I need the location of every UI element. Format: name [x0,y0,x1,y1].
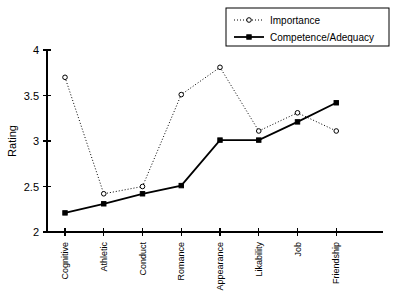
legend-marker [247,18,252,23]
data-point-marker [140,192,144,196]
data-point-marker [295,110,300,115]
data-point-marker [218,65,223,70]
series-1 [63,65,339,196]
legend-entry-label: Competence/Adequacy [270,32,374,43]
data-point-marker [102,202,106,206]
y-axis-tick-label: 3.5 [24,90,39,102]
y-axis-tick-label: 4 [33,44,39,56]
data-point-marker [295,120,299,124]
data-point-marker [140,184,145,189]
data-point-marker [101,191,106,196]
legend: ImportanceCompetence/Adequacy [226,8,389,46]
data-point-marker [63,211,67,215]
data-point-marker [334,129,339,134]
y-axis-tick-label: 2.5 [24,181,39,193]
x-axis-category-label: Likability [254,242,264,277]
x-axis-category-label: Friendship [331,242,341,284]
x-axis-category-label: Athletic [99,242,109,272]
data-point-marker [257,138,261,142]
data-point-marker [179,92,184,97]
series-2 [63,101,339,216]
chart-container: 22.533.54RatingCognitiveAthleticConductR… [0,0,395,297]
legend-entry-label: Importance [270,15,320,26]
x-axis-category-label: Appearance [215,242,225,291]
legend-marker [247,35,251,39]
data-point-marker [256,129,261,134]
x-axis-category-label: Conduct [138,242,148,276]
data-point-marker [218,138,222,142]
data-point-marker [334,101,338,105]
line-chart-plot: 22.533.54RatingCognitiveAthleticConductR… [0,0,395,297]
y-axis-title: Rating [6,125,18,157]
x-axis-category-label: Job [293,242,303,257]
y-axis-tick-label: 2 [33,226,39,238]
x-axis-category-label: Cognitive [60,242,70,280]
data-point-marker [63,75,68,80]
x-axis-category-label: Romance [176,242,186,281]
y-axis-tick-label: 3 [33,135,39,147]
data-point-marker [179,183,183,187]
series-line [65,67,336,193]
